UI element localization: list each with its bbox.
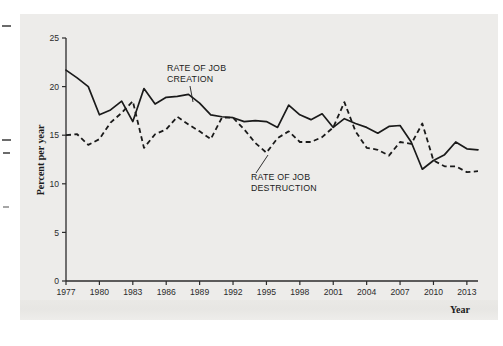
y-axis-ticks: 0510152025 bbox=[49, 33, 66, 286]
annotation-leader-job-creation bbox=[190, 86, 193, 102]
y-tick-label: 25 bbox=[49, 33, 59, 43]
x-tick-label: 2013 bbox=[457, 287, 476, 297]
y-tick-label: 10 bbox=[49, 179, 59, 189]
figure-container: 0510152025 19771980198319861989199219951… bbox=[0, 0, 503, 346]
x-tick-label: 1977 bbox=[56, 287, 75, 297]
series-line-job-creation bbox=[66, 70, 478, 169]
x-tick-label: 2004 bbox=[357, 287, 376, 297]
annotation-job-destruction-line1: RATE OF JOB bbox=[251, 172, 310, 182]
x-tick-label: 2010 bbox=[424, 287, 443, 297]
x-tick-label: 1983 bbox=[123, 287, 142, 297]
line-chart: 0510152025 19771980198319861989199219951… bbox=[0, 0, 503, 346]
x-tick-label: 1992 bbox=[223, 287, 242, 297]
y-tick-label: 15 bbox=[49, 130, 59, 140]
annotation-leader-job-destruction bbox=[256, 155, 268, 173]
x-tick-label: 1998 bbox=[290, 287, 309, 297]
y-axis-title: Percent per year bbox=[35, 124, 46, 195]
x-tick-label: 1989 bbox=[190, 287, 209, 297]
x-tick-label: 2001 bbox=[324, 287, 343, 297]
x-tick-label: 1986 bbox=[157, 287, 176, 297]
x-tick-label: 1980 bbox=[90, 287, 109, 297]
annotation-job-destruction-line2: DESTRUCTION bbox=[251, 183, 317, 193]
y-tick-label: 0 bbox=[54, 276, 59, 286]
x-axis-title: Year bbox=[450, 304, 471, 315]
y-tick-label: 5 bbox=[54, 228, 59, 238]
annotation-job-creation-line2: CREATION bbox=[167, 74, 213, 84]
annotation-job-creation-line1: RATE OF JOB bbox=[167, 63, 226, 73]
x-tick-label: 2007 bbox=[390, 287, 409, 297]
x-tick-label: 1995 bbox=[257, 287, 276, 297]
x-axis-ticks: 1977198019831986198919921995199820012004… bbox=[56, 281, 476, 297]
y-tick-label: 20 bbox=[49, 82, 59, 92]
